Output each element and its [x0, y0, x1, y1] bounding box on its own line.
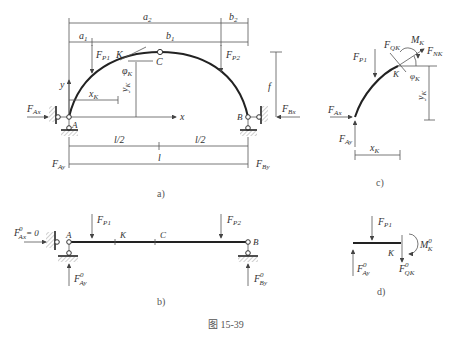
svg-text:FP1: FP1	[377, 216, 392, 229]
svg-text:FBx: FBx	[281, 103, 296, 116]
svg-text:l/2: l/2	[114, 134, 125, 145]
svg-text:yK: yK	[415, 91, 428, 101]
arch-segment	[355, 66, 398, 117]
svg-text:a2: a2	[143, 11, 152, 24]
panel-b-label: b)	[157, 296, 165, 308]
panel-d-label: d)	[377, 286, 385, 298]
svg-text:FAx: FAx	[26, 103, 41, 116]
panel-c-label: c)	[376, 177, 384, 189]
svg-text:FP2: FP2	[226, 214, 241, 227]
svg-text:xK: xK	[88, 88, 98, 101]
svg-text:FQK: FQK	[383, 39, 400, 52]
svg-text:K: K	[115, 49, 124, 60]
svg-text:K: K	[119, 230, 127, 240]
svg-text:F0Ay: F0Ay	[356, 261, 370, 277]
svg-text:FAy: FAy	[51, 158, 66, 171]
panel-a: a2 b2 a1 b1 C K φK yK xK x y	[26, 11, 300, 200]
svg-text:FAx: FAx	[327, 104, 342, 117]
svg-text:FBy: FBy	[255, 158, 270, 171]
force-fnk-arrow	[398, 49, 424, 66]
panel-b: K C A F0Ax= 0 B FP1 FP2	[13, 214, 268, 308]
svg-text:FNK: FNK	[426, 45, 443, 58]
svg-text:a1: a1	[79, 30, 88, 43]
panel-a-label: a)	[157, 188, 165, 200]
moment-mk0-arc	[409, 234, 418, 254]
hinge-c	[157, 49, 162, 54]
svg-text:FP1: FP1	[96, 214, 111, 227]
svg-text:l: l	[158, 152, 161, 163]
support-a: A	[49, 106, 78, 136]
svg-text:FP1: FP1	[352, 51, 367, 64]
support-a-beam: A	[46, 230, 78, 262]
svg-text:A: A	[65, 230, 72, 240]
svg-text:M0K: M0K	[419, 237, 433, 253]
svg-text:C: C	[160, 230, 167, 240]
support-b: B	[237, 106, 268, 136]
moment-mk-arc	[400, 48, 418, 58]
panel-c: yK xK FQK FNK MK φK K FP1 FAx FAy c)	[327, 34, 443, 189]
figure-caption: 图 15-39	[208, 319, 244, 330]
svg-text:y: y	[59, 79, 65, 90]
svg-text:F0By: F0By	[253, 271, 268, 287]
svg-text:l/2: l/2	[195, 134, 206, 145]
svg-text:φK: φK	[410, 71, 420, 83]
figure-15-39: a2 b2 a1 b1 C K φK yK xK x y	[0, 0, 456, 343]
svg-text:yK: yK	[119, 83, 132, 93]
svg-text:A: A	[71, 120, 78, 130]
svg-text:f: f	[268, 81, 272, 92]
svg-text:B: B	[237, 112, 243, 122]
svg-text:FP1: FP1	[95, 49, 110, 62]
svg-text:MK: MK	[410, 34, 424, 47]
panel-d: K FP1 F0Ay F0QK M0K d)	[353, 216, 433, 298]
svg-text:F0QK: F0QK	[398, 261, 415, 277]
svg-text:b1: b1	[166, 30, 175, 43]
svg-text:K: K	[392, 69, 400, 79]
svg-text:FP2: FP2	[225, 49, 240, 62]
svg-text:FAy: FAy	[338, 133, 353, 146]
svg-text:F0Ay: F0Ay	[73, 271, 87, 287]
svg-text:C: C	[156, 56, 163, 67]
svg-text:b2: b2	[229, 11, 238, 24]
svg-text:xK: xK	[369, 142, 379, 155]
support-b-beam: B	[238, 237, 259, 262]
svg-text:F0Ax= 0: F0Ax= 0	[13, 225, 39, 241]
svg-text:K: K	[387, 248, 395, 258]
svg-text:x: x	[179, 111, 185, 122]
svg-text:φK: φK	[122, 65, 133, 78]
svg-text:B: B	[253, 237, 259, 247]
